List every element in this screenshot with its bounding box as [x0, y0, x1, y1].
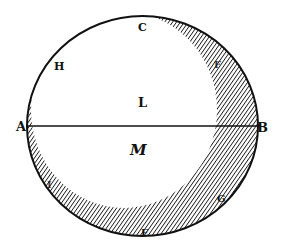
label-c: C [138, 21, 147, 34]
label-i: I [47, 179, 52, 190]
label-g: G [217, 193, 226, 204]
hatched-shading [0, 0, 284, 249]
label-b: B [257, 120, 268, 135]
label-f: F [214, 59, 221, 70]
label-l: L [138, 95, 147, 110]
label-m: M [129, 141, 147, 159]
inner-light-region [31, 12, 217, 208]
label-e: E [141, 227, 149, 238]
label-a: A [15, 119, 27, 134]
circle-diagram: A B C H F L M I G E [0, 0, 284, 249]
label-h: H [54, 60, 64, 73]
